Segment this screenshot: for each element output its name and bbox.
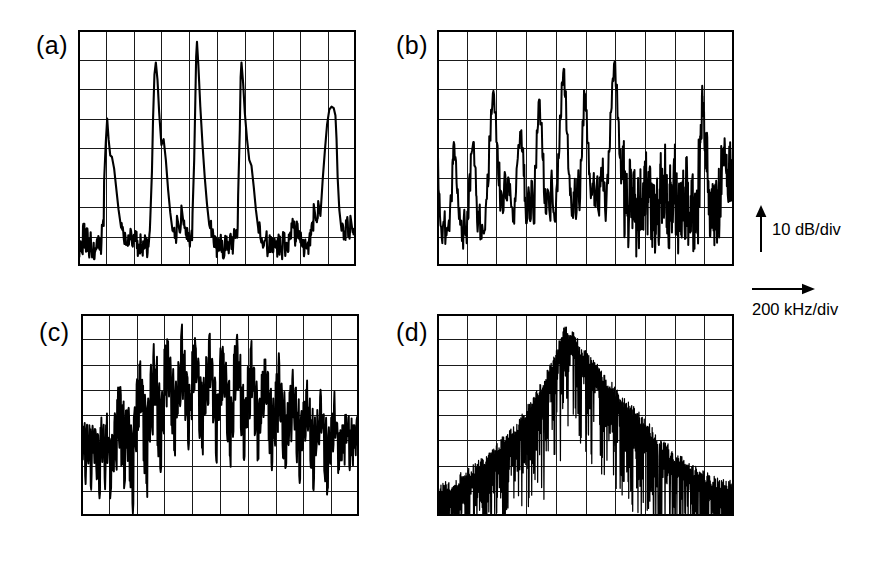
panel-d-spectrum	[437, 314, 734, 516]
legend-horizontal-axis	[752, 281, 816, 297]
panel-label-b: (b)	[396, 33, 428, 58]
panel-d-plot	[437, 314, 734, 516]
panel-label-d: (d)	[396, 320, 428, 345]
panel-a-plot	[78, 30, 356, 266]
legend-vertical-label: 10 dB/div	[772, 221, 841, 238]
legend-vertical-axis	[752, 205, 770, 253]
panel-label-c: (c)	[39, 320, 70, 345]
panel-c-spectrum	[81, 314, 359, 516]
right-arrow-icon	[752, 281, 816, 297]
panel-c-plot	[81, 314, 359, 516]
legend-horizontal-label: 200 kHz/div	[752, 301, 838, 318]
panel-b-plot	[437, 30, 734, 266]
figure-root: (a) (b) (c) (d) 10 dB/div 200 kHz/div	[0, 0, 878, 563]
panel-b-spectrum	[437, 30, 734, 266]
panel-a-spectrum	[78, 30, 356, 266]
panel-label-a: (a)	[36, 33, 68, 58]
up-arrow-icon	[752, 205, 770, 253]
